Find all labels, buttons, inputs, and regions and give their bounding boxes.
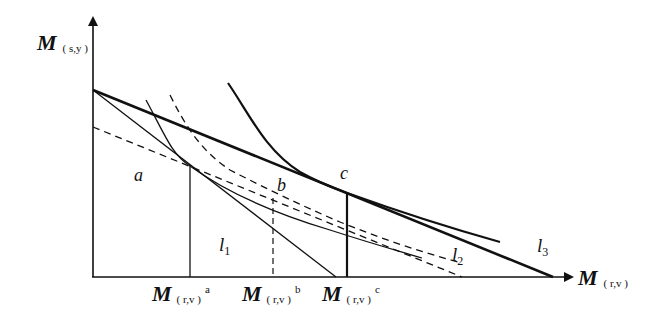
line-label-l2: l2 (452, 244, 463, 268)
line-l1 (93, 90, 336, 277)
x-tick-label-c: M( r,v )c (321, 281, 380, 306)
economic-diagram: M( s,y ) M( r,v ) a b c l1 l2 l3 M( r,v … (0, 0, 664, 323)
line-label-l1: l1 (219, 234, 230, 258)
line-l2 (93, 127, 462, 277)
indifference-curve-b (170, 95, 462, 263)
point-label-b: b (277, 175, 286, 195)
line-label-l3: l3 (537, 235, 548, 259)
x-axis-label: M( r,v ) (577, 265, 628, 290)
x-tick-label-a: M( r,v )a (151, 281, 210, 306)
x-tick-label-b: M( r,v )b (241, 281, 301, 306)
y-axis-label: M( s,y ) (36, 30, 88, 55)
point-label-a: a (134, 165, 143, 185)
point-label-c: c (340, 163, 348, 183)
